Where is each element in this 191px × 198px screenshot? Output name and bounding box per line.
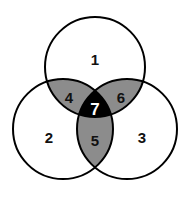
- label-region-1: 1: [91, 51, 99, 68]
- label-region-2: 2: [45, 129, 53, 146]
- venn-diagram: 1 2 3 4 5 6 7: [0, 0, 191, 198]
- label-region-5: 5: [91, 132, 99, 149]
- label-region-4: 4: [65, 89, 74, 106]
- label-region-3: 3: [138, 129, 146, 146]
- label-region-7: 7: [90, 100, 99, 119]
- label-region-6: 6: [117, 89, 125, 106]
